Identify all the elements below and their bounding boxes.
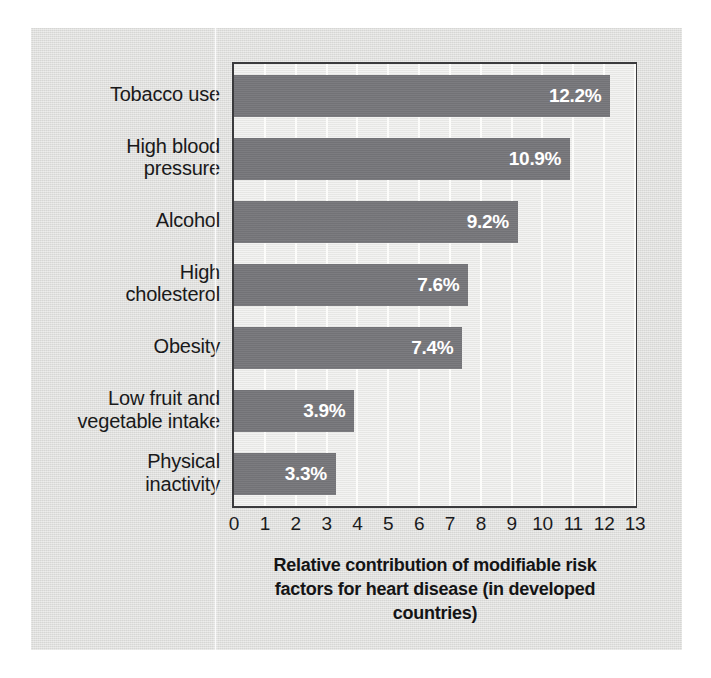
- bar-value-label: 10.9%: [509, 148, 561, 170]
- x-tick-label-0: 0: [229, 513, 239, 535]
- x-tick-label-5: 5: [383, 513, 393, 535]
- x-tick-label-4: 4: [352, 513, 362, 535]
- bar-row: 12.2%: [234, 75, 635, 117]
- bar-row: 9.2%: [234, 201, 635, 243]
- x-axis-tick-labels: 012345678910111213: [232, 513, 637, 539]
- x-tick-label-2: 2: [291, 513, 301, 535]
- chart-caption: Relative contribution of modifiable risk…: [212, 553, 658, 625]
- bar-row: 10.9%: [234, 138, 635, 180]
- category-label: High cholesterol: [125, 261, 220, 306]
- category-label: Alcohol: [156, 209, 220, 231]
- bar[interactable]: 7.4%: [234, 327, 462, 369]
- x-tick-label-11: 11: [564, 513, 583, 535]
- bar-row: 3.9%: [234, 390, 635, 432]
- x-tick-label-12: 12: [594, 513, 615, 535]
- bar[interactable]: 12.2%: [234, 75, 610, 117]
- x-tick-label-13: 13: [625, 513, 646, 535]
- bar-value-label: 3.9%: [303, 400, 345, 422]
- x-tick-label-8: 8: [476, 513, 486, 535]
- caption-line-2: factors for heart disease (in developed: [212, 577, 658, 601]
- x-tick-label-7: 7: [445, 513, 455, 535]
- x-tick-label-9: 9: [506, 513, 516, 535]
- bar-row: 3.3%: [234, 453, 635, 495]
- x-tick-label-6: 6: [414, 513, 424, 535]
- category-axis: Tobacco useHigh blood pressureAlcoholHig…: [40, 62, 226, 508]
- bar[interactable]: 3.9%: [234, 390, 354, 432]
- bar[interactable]: 3.3%: [234, 453, 336, 495]
- bar[interactable]: 7.6%: [234, 264, 468, 306]
- category-label: Low fruit and vegetable intake: [78, 387, 220, 432]
- bar[interactable]: 10.9%: [234, 138, 570, 180]
- bar[interactable]: 9.2%: [234, 201, 518, 243]
- bar-row: 7.6%: [234, 264, 635, 306]
- x-tick-label-3: 3: [321, 513, 331, 535]
- caption-line-1: Relative contribution of modifiable risk: [212, 553, 658, 577]
- bar-value-label: 12.2%: [549, 85, 601, 107]
- category-label: Tobacco use: [110, 82, 220, 104]
- caption-line-3: countries): [212, 601, 658, 625]
- chart-plot-area: 12.2%10.9%9.2%7.6%7.4%3.9%3.3%: [232, 62, 637, 508]
- category-label: Physical inactivity: [145, 450, 220, 495]
- bar-value-label: 7.6%: [417, 274, 459, 296]
- category-label: High blood pressure: [126, 134, 220, 179]
- bar-value-label: 3.3%: [285, 463, 327, 485]
- category-label: Obesity: [154, 335, 220, 357]
- x-tick-label-1: 1: [260, 513, 270, 535]
- x-tick-label-10: 10: [532, 513, 553, 535]
- bar-row: 7.4%: [234, 327, 635, 369]
- bar-value-label: 9.2%: [467, 211, 509, 233]
- bar-value-label: 7.4%: [411, 337, 453, 359]
